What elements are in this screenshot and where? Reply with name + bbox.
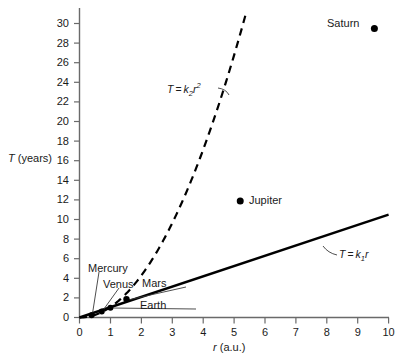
x-tick-label-0: 0 [69,326,91,338]
x-tick-label-1: 1 [100,326,122,338]
quadratic-eq-sign: = [173,83,183,95]
label-venus: Venus [103,278,134,290]
linear-equation-label: T=k1r [339,248,368,263]
y-tick-label-14: 14 [47,174,69,186]
y-tick-marks [74,24,80,318]
x-tick-label-4: 4 [192,326,214,338]
y-tick-label-6: 6 [47,252,69,264]
x-tick-label-6: 6 [254,326,276,338]
point-venus [99,308,105,314]
x-tick-label-8: 8 [316,326,338,338]
y-tick-label-2: 2 [47,291,69,303]
linear-eq-var: r [365,248,369,260]
x-axis-symbol: r [213,341,217,353]
point-jupiter [237,197,244,204]
y-tick-label-22: 22 [47,95,69,107]
y-tick-label-4: 4 [47,272,69,284]
point-saturn [371,25,378,32]
data-points [89,25,378,318]
y-tick-label-18: 18 [47,135,69,147]
point-mars [123,296,129,302]
mercury-leader [93,272,100,314]
y-axis-symbol: T [8,152,15,164]
y-tick-label-26: 26 [47,56,69,68]
y-axis-title: T (years) [8,152,52,164]
x-axis-title: r (a.u.) [213,341,245,353]
x-tick-label-7: 7 [285,326,307,338]
y-tick-label-24: 24 [47,76,69,88]
label-saturn: Saturn [327,17,359,29]
quadratic-eq-exp: 2 [196,81,200,90]
x-tick-marks [80,318,389,324]
y-tick-label-8: 8 [47,233,69,245]
label-jupiter: Jupiter [249,194,282,206]
x-tick-label-3: 3 [161,326,183,338]
quadratic-equation-label: T=k2r2 [167,81,201,98]
x-tick-label-9: 9 [347,326,369,338]
linear-eq-leader [323,246,337,255]
x-tick-label-2: 2 [130,326,152,338]
y-tick-label-10: 10 [47,213,69,225]
y-tick-label-20: 20 [47,115,69,127]
y-tick-label-28: 28 [47,37,69,49]
point-earth [107,305,113,311]
point-mercury [89,312,95,318]
label-mars: Mars [142,277,166,289]
label-mercury: Mercury [88,262,128,274]
x-tick-label-10: 10 [378,326,399,338]
y-tick-label-12: 12 [47,193,69,205]
y-tick-label-0: 0 [47,311,69,323]
y-tick-label-30: 30 [47,17,69,29]
linear-eq-sign: = [345,248,355,260]
y-axis-unit: (years) [18,152,52,164]
x-tick-label-5: 5 [223,326,245,338]
label-earth: Earth [140,299,166,311]
x-axis-unit: (a.u.) [220,341,246,353]
planetary-period-chart: 0 2 4 6 8 10 12 14 16 18 20 22 24 26 28 … [0,0,399,361]
